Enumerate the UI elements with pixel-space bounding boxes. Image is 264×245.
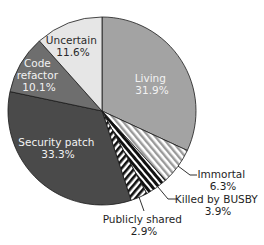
pie-chart: Living 31.9% Uncertain 11.6% Code refact… [0,0,264,245]
label-uncertain-name: Uncertain [46,34,97,46]
label-living-pct: 31.9% [135,84,168,96]
leader-line-shared [139,197,144,211]
leader-line-killed [158,187,176,199]
leader-line-immortal [178,166,197,175]
label-immortal-pct: 6.3% [210,180,237,192]
pie-slices [8,17,196,205]
label-killed-name: Killed by BUSBY [175,193,258,205]
label-security-patch-pct: 33.3% [41,148,74,160]
label-code-refactor-line1: Code [24,57,51,69]
label-killed-pct: 3.9% [205,205,232,217]
label-publicly-shared: Publicly shared 2.9% [103,213,186,237]
label-shared-name: Publicly shared [103,213,182,225]
label-security-patch-name: Security patch [18,136,94,148]
label-living-name: Living [135,72,166,84]
label-code-refactor-pct: 10.1% [22,81,55,93]
label-uncertain-pct: 11.6% [56,46,89,58]
label-immortal: Immortal 6.3% [197,168,248,192]
label-shared-pct: 2.9% [131,225,158,237]
label-living: Living 31.9% [135,72,170,96]
label-immortal-name: Immortal [197,168,245,180]
label-killed-by-busby: Killed by BUSBY 3.9% [175,193,261,217]
label-code-refactor-line2: refactor [17,69,59,81]
